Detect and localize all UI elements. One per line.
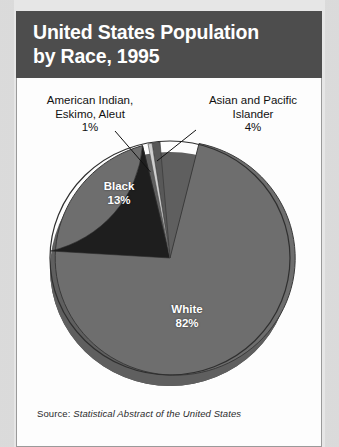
slice-label-black: Black 13% [82, 180, 156, 207]
title-band: United States Population by Race, 1995 [16, 11, 322, 78]
callout-asian-pacific-islander: Asian and Pacific Islander 4% [190, 94, 316, 135]
page-title: United States Population by Race, 1995 [33, 20, 308, 68]
chart-figure: United States Population by Race, 1995 [16, 11, 322, 447]
figure-page: United States Population by Race, 1995 A… [0, 0, 339, 447]
source-title: Statistical Abstract of the United State… [73, 408, 241, 419]
source-note: Source: Statistical Abstract of the Unit… [37, 408, 241, 419]
source-lead: Source: [37, 408, 70, 419]
slice-label-white: White 82% [150, 303, 224, 330]
callout-american-indian: American Indian, Eskimo, Aleut 1% [21, 94, 159, 135]
